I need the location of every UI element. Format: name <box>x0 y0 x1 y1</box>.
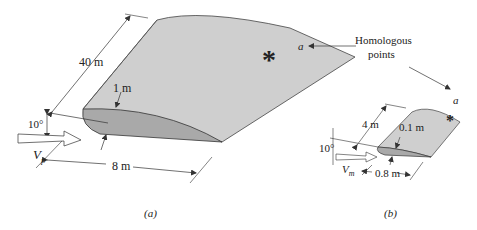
angle-label-model: 10° <box>319 143 334 154</box>
angle-label-prototype: 10° <box>28 119 43 130</box>
span-label-model: 4 m <box>362 119 379 130</box>
velocity-arrow-model <box>336 152 377 162</box>
thickness-label-model: 0.1 m <box>399 122 424 133</box>
chord-label-model: 0.8 m <box>375 168 400 179</box>
chord-label-prototype: 8 m <box>112 160 130 172</box>
homologous-marker-prototype: * <box>262 46 276 74</box>
thickness-label-prototype: 1 m <box>113 82 131 94</box>
caption-a: (a) <box>144 208 157 219</box>
velocity-arrow-prototype <box>18 131 81 146</box>
points-label: points <box>368 49 395 60</box>
prototype-wing <box>83 16 355 143</box>
homologous-label: Homologous <box>355 35 412 46</box>
velocity-label-prototype: Vp <box>33 148 45 165</box>
homologous-marker-model: * <box>446 113 454 129</box>
velocity-label-model: Vm <box>342 164 355 178</box>
point-label-prototype: a <box>298 41 304 52</box>
point-label-model: a <box>453 95 459 106</box>
caption-b: (b) <box>384 208 397 219</box>
span-label-prototype: 40 m <box>79 56 103 68</box>
